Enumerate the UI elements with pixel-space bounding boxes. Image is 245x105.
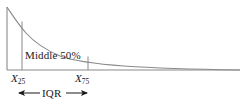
middle-fifty-percent-label: Middle 50% bbox=[25, 50, 81, 61]
x25-label: X25 bbox=[11, 73, 25, 85]
x75-subscript: 75 bbox=[82, 77, 89, 86]
x75-symbol: X bbox=[75, 72, 82, 84]
x25-symbol: X bbox=[11, 72, 18, 84]
distribution-figure: Middle 50% X25 X75 IQR bbox=[0, 0, 245, 105]
x75-label: X75 bbox=[75, 73, 89, 85]
iqr-label: IQR bbox=[42, 88, 62, 99]
x25-subscript: 25 bbox=[18, 77, 25, 86]
